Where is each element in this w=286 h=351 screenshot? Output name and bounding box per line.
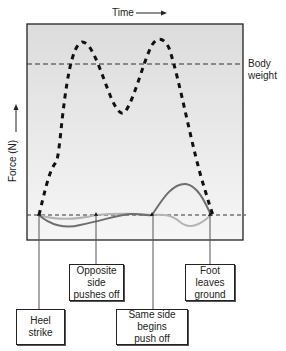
event-heel-strike: Heelstrike (16, 309, 65, 345)
body-weight-label-line2: weight (248, 70, 277, 82)
gait-force-diagram (0, 0, 286, 351)
event-same-side-begins-push-off: Same side beginspush off (116, 309, 188, 345)
x-axis-label: Time (112, 7, 134, 19)
body-weight-label-line1: Body (248, 58, 277, 70)
event-opposite-side-pushes-off: Opposite sidepushes off (69, 264, 124, 301)
y-axis-label: Force (N) (7, 140, 19, 182)
plot-area (27, 24, 243, 240)
event-foot-leaves-ground: Foot leavesground (185, 264, 235, 301)
body-weight-label: Body weight (248, 58, 277, 82)
